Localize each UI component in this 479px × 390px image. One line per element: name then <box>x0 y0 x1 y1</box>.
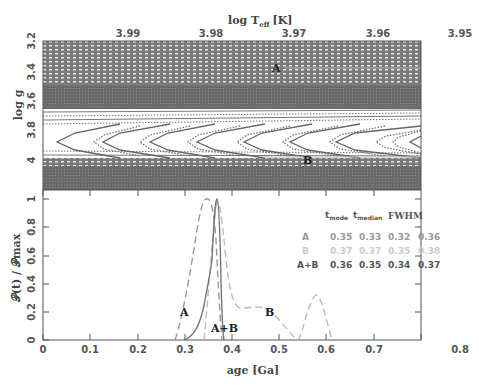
top-xlabel: log Teff[K] <box>228 14 292 29</box>
contour-map <box>43 41 421 190</box>
cell: 0.32 <box>388 232 410 242</box>
tick-label: 3.99 <box>116 28 141 39</box>
label-a: A <box>271 62 281 75</box>
tick-label: 0.7 <box>365 344 383 355</box>
cell: 0.35 <box>330 232 352 242</box>
row-label: A <box>302 232 309 242</box>
cell: 0.35 <box>388 246 410 256</box>
tick-label: 4 <box>26 156 37 163</box>
row-label: B <box>302 246 309 256</box>
cell: 0.35 <box>359 260 381 270</box>
label-b: B <box>303 154 312 167</box>
tick-label: 3.6 <box>26 92 37 110</box>
bottom-x-tick-labels: 0 0.1 0.2 0.3 0.4 0.5 0.6 0.7 0.8 <box>40 344 469 355</box>
tick-label: 0 <box>26 336 37 343</box>
top-panel: log Teff[K] 3.99 3.98 3.97 3.96 3.95 3.2… <box>12 14 472 190</box>
curve-label-a: A <box>179 306 189 319</box>
bottom-panel: 0 0.1 0.2 0.3 0.4 0.5 0.6 0.7 0.8 age [G… <box>10 190 469 377</box>
tick-label: 1 <box>26 195 37 202</box>
bottom-xlabel: age [Ga] <box>227 364 280 377</box>
tick-label: 0.3 <box>176 344 194 355</box>
tick-label: 3.96 <box>366 28 391 39</box>
tick-label: 0.1 <box>81 344 99 355</box>
cell: 0.37 <box>330 246 352 256</box>
tick-label: 0 <box>40 344 47 355</box>
row-label: A+B <box>297 260 319 270</box>
tick-label: 3.95 <box>448 28 473 39</box>
cell: 0.37 <box>359 246 381 256</box>
tick-label: 0.8 <box>26 218 37 236</box>
cell: 0.38 <box>418 246 440 256</box>
cell: 0.34 <box>388 260 410 270</box>
bottom-ylabel: 𝒫(t) / 𝒫max <box>10 233 23 303</box>
top-ylabel: log g <box>12 89 25 120</box>
top-y-tick-labels: 3.2 3.4 3.6 3.8 4 <box>26 32 37 163</box>
tick-label: 0.2 <box>129 344 147 355</box>
cell: 0.37 <box>418 260 440 270</box>
curve-label-b: B <box>265 306 274 319</box>
figure: log Teff[K] 3.99 3.98 3.97 3.96 3.95 3.2… <box>0 0 479 390</box>
curve-label-ab: A+B <box>210 322 238 335</box>
tick-label: 0.6 <box>26 247 37 265</box>
cell: 0.36 <box>330 260 352 270</box>
bottom-y-tick-labels: 0 0.2 0.4 0.6 0.8 1 <box>26 195 37 343</box>
cell: 0.33 <box>359 232 381 242</box>
tick-label: 0.4 <box>26 275 37 293</box>
cell: 0.36 <box>418 232 440 242</box>
tick-label: 0.8 <box>451 344 469 355</box>
tick-label: 0.4 <box>223 344 241 355</box>
tick-label: 0.5 <box>270 344 288 355</box>
header-fwhm: FWHM <box>388 211 423 221</box>
tick-label: 3.8 <box>26 121 37 139</box>
tick-label: 3.98 <box>199 28 224 39</box>
tick-label: 3.97 <box>282 28 307 39</box>
tick-label: 3.4 <box>26 63 37 81</box>
tick-label: 3.2 <box>26 32 37 50</box>
tick-label: 0.6 <box>317 344 335 355</box>
top-x-tick-labels: 3.99 3.98 3.97 3.96 3.95 <box>116 28 473 39</box>
tick-label: 0.2 <box>26 303 37 321</box>
